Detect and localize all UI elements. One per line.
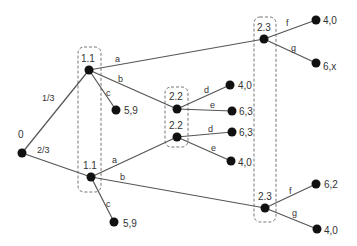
action-lower-b: b [120,172,125,182]
terminal-p23u-g [312,59,321,68]
action-upper-a: a [115,54,120,64]
prob-lower: 2/3 [37,145,50,155]
action-p22u-d: d [204,85,209,95]
terminal-p23u-f [312,16,321,25]
root-label: 0 [18,129,24,140]
action-lower-a: a [112,155,117,165]
terminal-p22l-e [227,157,236,166]
action-p23u-g: g [291,43,296,53]
edge-chance-lower [22,153,91,177]
edge-lower-c [91,177,114,222]
payoff-upper-c: 5,9 [124,105,138,116]
action-p22l-e: e [211,143,216,153]
payoff-p22l-e: 4,0 [238,157,252,168]
edge-p22l-d [177,132,232,137]
payoff-p23l-g: 4,0 [324,225,338,236]
player1-lower-node [87,173,96,182]
edge-chance-upper [22,70,89,153]
payoff-p22l-d: 6,3 [239,127,253,138]
game-tree-diagram: 0 1.1 1.1 2.2 2.2 2.3 2.3 1/3 2/3 a b c … [0,0,357,246]
player2-2-lower-node [173,133,182,142]
root-node [18,149,27,158]
terminal-lower-c [110,218,119,227]
terminal-p22u-e [228,107,237,116]
player2-3-upper-node [260,35,269,44]
player2-3-lower-node [261,204,270,213]
edge-p22u-e [177,109,232,111]
player2-2-upper-node [173,105,182,114]
edge-p23u-g [264,39,316,63]
action-p23l-f: f [289,186,292,196]
player1-upper-label: 1.1 [81,53,95,64]
action-upper-c: c [106,88,111,98]
edge-p22l-e [177,137,231,161]
payoff-p23u-f: 4,0 [323,15,337,26]
player2-2-upper-label: 2.2 [169,91,183,102]
player2-3-upper-label: 2.3 [257,22,271,33]
terminal-p22l-d [228,128,237,137]
payoff-lower-c: 5,9 [123,218,137,229]
terminal-p23l-g [313,225,322,234]
payoff-p23u-g: 6,x [323,61,336,72]
edge-lower-a [91,137,177,177]
action-p23l-g: g [292,208,297,218]
player2-2-lower-label: 2.2 [169,120,183,131]
terminal-p22u-d [226,81,235,90]
payoff-p22u-e: 6,3 [239,106,253,117]
action-p22u-e: e [210,100,215,110]
terminal-p23l-f [312,180,321,189]
terminal-upper-c [112,106,121,115]
player1-upper-node [85,66,94,75]
payoff-p22u-d: 4,0 [238,80,252,91]
edge-p23l-g [265,208,317,229]
edge-lower-b [91,177,265,208]
player1-lower-label: 1.1 [83,160,97,171]
player2-3-lower-label: 2.3 [258,191,272,202]
edge-p23u-f [264,20,316,39]
payoff-p23l-f: 6,2 [324,179,338,190]
game-tree-canvas: 0 1.1 1.1 2.2 2.2 2.3 2.3 1/3 2/3 a b c … [0,0,357,246]
prob-upper: 1/3 [42,93,55,103]
action-lower-c: c [106,199,111,209]
action-p22l-d: d [208,124,213,134]
action-upper-b: b [118,74,123,84]
action-p23u-f: f [286,18,289,28]
